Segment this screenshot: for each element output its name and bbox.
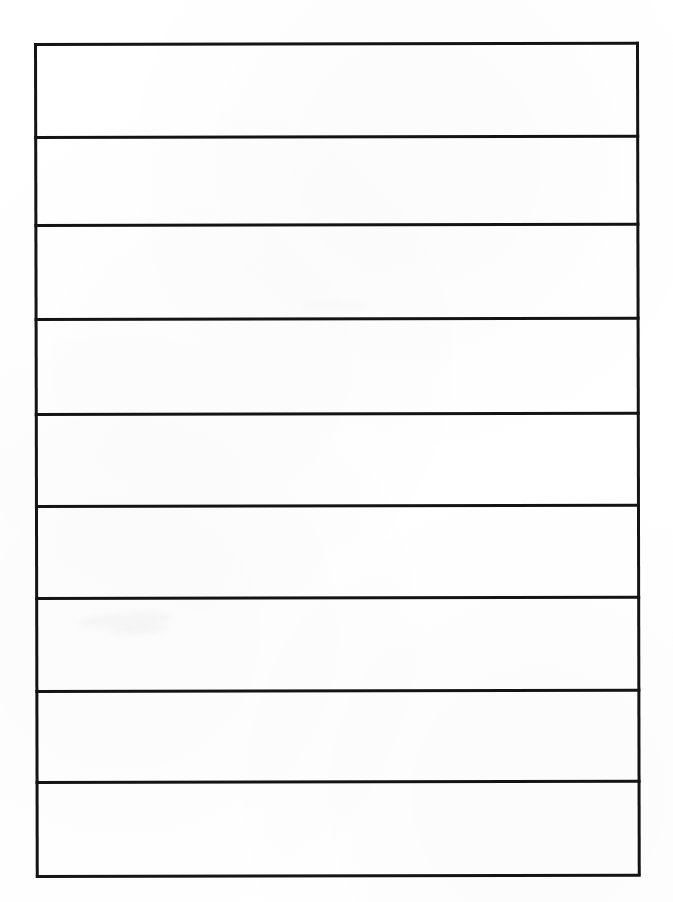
table-horizontal-rules [34,42,639,43]
form-row-6[interactable] [38,507,637,597]
form-row-7[interactable] [38,599,637,690]
form-row-8[interactable] [38,692,637,781]
form-row-5[interactable] [38,415,637,505]
form-row-4[interactable] [38,320,637,413]
blank-ruled-form-table [34,42,641,876]
scanned-page [0,0,673,902]
form-row-3[interactable] [37,226,636,318]
form-row-2[interactable] [37,138,636,224]
form-row-1[interactable] [37,45,636,136]
form-row-9[interactable] [39,783,638,875]
